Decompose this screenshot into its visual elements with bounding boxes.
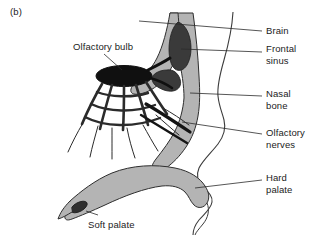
label-brain: Brain <box>266 25 289 37</box>
leader-nasal-bone <box>190 93 262 96</box>
label-olfactory-nerves-line2: nerves <box>266 139 305 151</box>
label-frontal-sinus-line2: sinus <box>266 55 296 67</box>
anatomy-figure: (b) Olfactory bulb Brain Frontal sinus N… <box>0 0 313 235</box>
label-olfactory-nerves: Olfactory nerves <box>266 127 305 150</box>
label-olfactory-bulb: Olfactory bulb <box>73 41 133 53</box>
label-hard-palate-line1: Hard <box>266 172 292 184</box>
oral-cavity-line <box>195 203 208 235</box>
label-nasal-bone-line1: Nasal <box>266 88 291 100</box>
leader-brain <box>139 21 262 31</box>
panel-letter: (b) <box>10 6 22 18</box>
label-nasal-bone-line2: bone <box>266 100 291 112</box>
label-hard-palate-line2: palate <box>266 184 292 196</box>
label-soft-palate: Soft palate <box>88 219 135 231</box>
label-olfactory-nerves-line1: Olfactory <box>266 127 305 139</box>
label-nasal-bone: Nasal bone <box>266 88 291 111</box>
label-frontal-sinus-line1: Frontal <box>266 43 296 55</box>
label-hard-palate: Hard palate <box>266 172 292 195</box>
label-frontal-sinus: Frontal sinus <box>266 43 296 66</box>
palate-structure <box>58 166 209 220</box>
leader-hard-palate <box>195 180 262 188</box>
